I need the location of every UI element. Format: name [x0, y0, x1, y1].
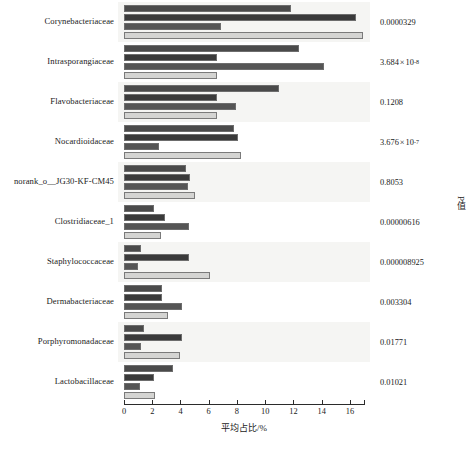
- p-value: 0.1208: [380, 82, 458, 122]
- x-axis-title: 平均占比/%: [124, 421, 364, 434]
- bar: [124, 343, 141, 350]
- bar: [124, 63, 324, 70]
- bar: [124, 125, 234, 132]
- bar-stack: [124, 325, 370, 359]
- p-value: 0.0000329: [380, 2, 458, 42]
- p-value: 0.01021: [380, 362, 458, 402]
- bar: [124, 223, 189, 230]
- bar: [124, 174, 190, 181]
- x-tick-label: 10: [261, 407, 269, 416]
- category-label: Corynebacteriaceae: [0, 2, 118, 42]
- p-value: 0.000008925: [380, 242, 458, 282]
- bar: [124, 85, 279, 92]
- bar: [124, 152, 241, 159]
- bar: [124, 285, 162, 292]
- p-value-mantissa: 3.684: [380, 58, 399, 67]
- category-label: Staphylococcaceae: [0, 242, 118, 282]
- bar-stack: [124, 5, 370, 39]
- category-label: norank_o__JG30-KF-CM45: [0, 162, 118, 202]
- p-value-text: 0.0000329: [380, 18, 416, 27]
- bar: [124, 365, 173, 372]
- category-label: Intrasporangiaceae: [0, 42, 118, 82]
- bar: [124, 214, 165, 221]
- bar: [124, 134, 238, 141]
- p-value: 0.01771: [380, 322, 458, 362]
- bar-stack: [124, 365, 370, 399]
- bar-group: [118, 282, 370, 322]
- category-label-column: CorynebacteriaceaeIntrasporangiaceaeFlav…: [0, 2, 118, 402]
- bar: [124, 263, 138, 270]
- x-tick-label: 6: [207, 407, 211, 416]
- x-tick: [237, 400, 238, 405]
- bar-group: [118, 82, 370, 122]
- x-tick: [152, 400, 153, 405]
- bar: [124, 94, 217, 101]
- x-tick-label: 16: [346, 407, 354, 416]
- p-value-column: 0.00003293.684×10-80.12083.676×10-70.805…: [380, 2, 458, 402]
- p-value-base: 10: [406, 58, 414, 67]
- p-value-text: 0.1208: [380, 98, 403, 107]
- bar: [124, 45, 299, 52]
- bar: [124, 232, 161, 239]
- x-tick-label: 14: [317, 407, 325, 416]
- category-label: Clostridiaceae_1: [0, 202, 118, 242]
- p-value: 0.00000616: [380, 202, 458, 242]
- bar: [124, 303, 182, 310]
- bar: [124, 334, 182, 341]
- bar: [124, 245, 141, 252]
- bar: [124, 54, 217, 61]
- bar-group: [118, 322, 370, 362]
- bar-group: [118, 162, 370, 202]
- grouped-bar-chart: CorynebacteriaceaeIntrasporangiaceaeFlav…: [0, 0, 476, 452]
- x-tick-label: 12: [289, 407, 297, 416]
- p-value-text: 0.00000616: [380, 218, 420, 227]
- p-value: 0.8053: [380, 162, 458, 202]
- bar-group: [118, 362, 370, 402]
- bar: [124, 383, 140, 390]
- bar-group: [118, 242, 370, 282]
- p-value-text: 0.8053: [380, 178, 403, 187]
- p-value-axis-title: P值: [455, 196, 468, 210]
- category-label: Porphyromonadaceae: [0, 322, 118, 362]
- bar: [124, 352, 180, 359]
- category-label: Nocardioidaceae: [0, 122, 118, 162]
- bar: [124, 392, 155, 399]
- bar: [124, 205, 154, 212]
- bar: [124, 312, 168, 319]
- p-value: 0.003304: [380, 282, 458, 322]
- plot-area: [118, 2, 370, 402]
- bar-group: [118, 202, 370, 242]
- p-value-text: 0.01771: [380, 338, 407, 347]
- bar: [124, 103, 236, 110]
- bar-group: [118, 122, 370, 162]
- p-value-base: 10: [406, 138, 414, 147]
- x-tick: [180, 400, 181, 405]
- category-label: Flavobacteriaceae: [0, 82, 118, 122]
- p-value-text: 0.000008925: [380, 258, 424, 267]
- bar: [124, 112, 217, 119]
- bar: [124, 5, 291, 12]
- category-label: Dermabacteriaceae: [0, 282, 118, 322]
- bar: [124, 254, 189, 261]
- bar: [124, 374, 154, 381]
- p-value-mantissa: 3.676: [380, 138, 399, 147]
- x-tick: [124, 400, 125, 405]
- x-tick: [322, 400, 323, 405]
- x-tick: [293, 400, 294, 405]
- x-axis-end-tick: [364, 400, 365, 405]
- multiply-icon: ×: [400, 58, 405, 67]
- x-tick-label: 2: [150, 407, 154, 416]
- bar: [124, 272, 210, 279]
- bar-stack: [124, 45, 370, 79]
- x-tick: [350, 400, 351, 405]
- x-axis-line: [124, 404, 364, 405]
- x-tick-label: 8: [235, 407, 239, 416]
- p-value: 3.676×10-7: [380, 122, 458, 162]
- bar-group: [118, 2, 370, 42]
- bar-stack: [124, 245, 370, 279]
- bar: [124, 72, 217, 79]
- p-value-text: 0.003304: [380, 298, 411, 307]
- bar-stack: [124, 85, 370, 119]
- bar: [124, 14, 356, 21]
- bar: [124, 143, 159, 150]
